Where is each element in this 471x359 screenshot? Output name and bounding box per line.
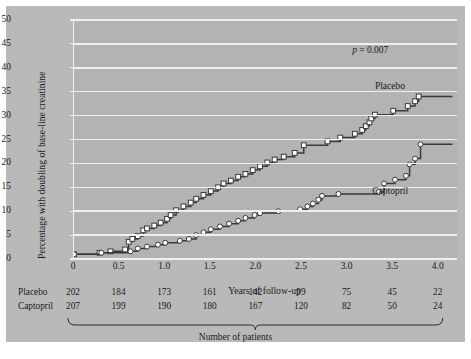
table-cell: 180	[190, 301, 230, 311]
table-cell: 199	[99, 301, 139, 311]
gridline	[74, 115, 457, 117]
data-point-marker	[99, 250, 104, 255]
data-point-marker	[243, 172, 248, 177]
table-cell: 207	[53, 301, 93, 311]
x-tick-label: 0.5	[104, 261, 134, 271]
data-point-marker	[158, 220, 163, 225]
data-point-marker	[418, 142, 423, 147]
x-tick-label: 2.5	[286, 261, 316, 271]
data-point-marker	[301, 143, 306, 148]
y-tick-label: 35	[0, 87, 11, 97]
data-point-marker	[123, 247, 128, 252]
y-tick-label: 25	[0, 135, 11, 145]
y-tick-mark	[70, 67, 75, 68]
data-point-marker	[163, 240, 168, 245]
table-cell: 24	[418, 301, 458, 311]
table-cell: 161	[190, 287, 230, 297]
y-tick-label: 20	[0, 158, 11, 168]
data-point-marker	[128, 249, 133, 254]
data-point-marker	[144, 244, 149, 249]
p-symbol: p	[352, 45, 357, 55]
data-point-marker	[236, 174, 241, 179]
y-tick-mark	[70, 19, 75, 20]
data-point-marker	[413, 156, 418, 161]
data-point-marker	[250, 168, 255, 173]
table-row-label: Captopril	[18, 301, 53, 311]
figure-panel: Percentage with doubling of base-line cr…	[6, 6, 465, 342]
table-cell: 142	[235, 287, 275, 297]
data-point-marker	[320, 193, 325, 198]
data-point-marker	[217, 224, 222, 229]
gridline	[74, 91, 457, 93]
y-tick-mark	[70, 115, 75, 116]
y-tick-mark	[70, 258, 75, 259]
data-point-marker	[413, 99, 418, 104]
y-tick-label: 50	[0, 15, 11, 25]
data-point-marker	[130, 237, 135, 242]
x-tick-label: 3.0	[332, 261, 362, 271]
table-caption: Number of patients	[6, 332, 465, 342]
y-tick-mark	[70, 235, 75, 236]
data-point-marker	[145, 226, 150, 231]
gridline	[74, 19, 457, 21]
table-cell: 22	[418, 287, 458, 297]
data-point-marker	[74, 252, 77, 257]
plot-area: p = 0.007 Placebo Captopril	[73, 20, 457, 259]
table-cell: 190	[144, 301, 184, 311]
data-point-marker	[252, 213, 257, 218]
gridline	[74, 234, 457, 236]
y-tick-mark	[70, 211, 75, 212]
data-point-marker	[305, 204, 310, 209]
data-point-marker	[221, 181, 226, 186]
data-point-marker	[416, 94, 421, 99]
data-point-marker	[281, 154, 286, 159]
x-tick-label: 0	[58, 261, 88, 271]
y-tick-mark	[70, 91, 75, 92]
table-row-label: Placebo	[18, 287, 47, 297]
y-tick-label: 10	[0, 206, 11, 216]
y-tick-label: 40	[0, 63, 11, 73]
y-axis-label: Percentage with doubling of base-line cr…	[36, 72, 47, 260]
x-tick-label: 1.0	[149, 261, 179, 271]
data-point-marker	[181, 204, 186, 209]
data-point-marker	[243, 215, 248, 220]
data-point-marker	[186, 236, 191, 241]
data-point-marker	[201, 193, 206, 198]
data-point-marker	[227, 221, 232, 226]
y-tick-label: 5	[0, 230, 11, 240]
y-tick-label: 45	[0, 39, 11, 49]
data-point-marker	[352, 131, 357, 136]
y-tick-mark	[70, 187, 75, 188]
data-point-marker	[272, 157, 277, 162]
data-point-marker	[152, 223, 157, 228]
table-cell: 75	[327, 287, 367, 297]
data-point-marker	[292, 150, 297, 155]
x-tick-label: 1.5	[195, 261, 225, 271]
table-cell: 45	[372, 287, 412, 297]
table-cell: 50	[372, 301, 412, 311]
table-cell: 167	[235, 301, 275, 311]
gridline	[74, 67, 457, 69]
series-label-captopril: Captopril	[372, 186, 408, 196]
data-point-marker	[168, 213, 173, 218]
data-point-marker	[258, 164, 263, 169]
gridline	[74, 139, 457, 141]
x-tick-label: 4.0	[423, 261, 453, 271]
y-tick-mark	[70, 139, 75, 140]
gridline	[74, 43, 457, 45]
data-point-marker	[336, 191, 341, 196]
gridline	[74, 258, 457, 260]
data-point-marker	[177, 238, 182, 243]
data-point-marker	[391, 108, 396, 113]
data-point-marker	[228, 178, 233, 183]
y-tick-label: 30	[0, 111, 11, 121]
series-label-placebo: Placebo	[375, 81, 405, 91]
y-tick-label: 0	[0, 254, 11, 264]
y-tick-mark	[70, 163, 75, 164]
table-cell: 202	[53, 287, 93, 297]
data-point-marker	[392, 177, 397, 182]
data-point-marker	[403, 173, 408, 178]
data-point-marker	[188, 200, 193, 205]
p-value-annotation: p = 0.007	[352, 45, 388, 55]
table-cell: 99	[281, 287, 321, 297]
